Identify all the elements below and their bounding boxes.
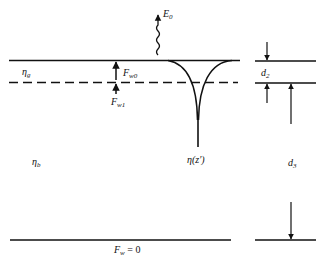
emission-wavy-arrow-icon [157,15,160,55]
emission-label: E0 [162,8,173,21]
eta-z-label: η(z′) [187,154,205,166]
fw0-label: Fw0 [122,67,138,80]
cusp-right-curve [199,61,233,121]
d3-label: d3 [288,157,297,170]
cusp-left-curve [168,61,198,121]
eta-g-label: ηg [22,66,31,79]
d2-label: d2 [261,67,270,80]
eta-b-label: ηb [32,156,41,169]
diagram-canvas: E0 ηg ηb Fw0 Fw1 η(z′) d2 d3 Fw = 0 [0,0,324,260]
fw1-label: Fw1 [110,96,125,109]
fw-zero-label: Fw = 0 [113,244,140,257]
